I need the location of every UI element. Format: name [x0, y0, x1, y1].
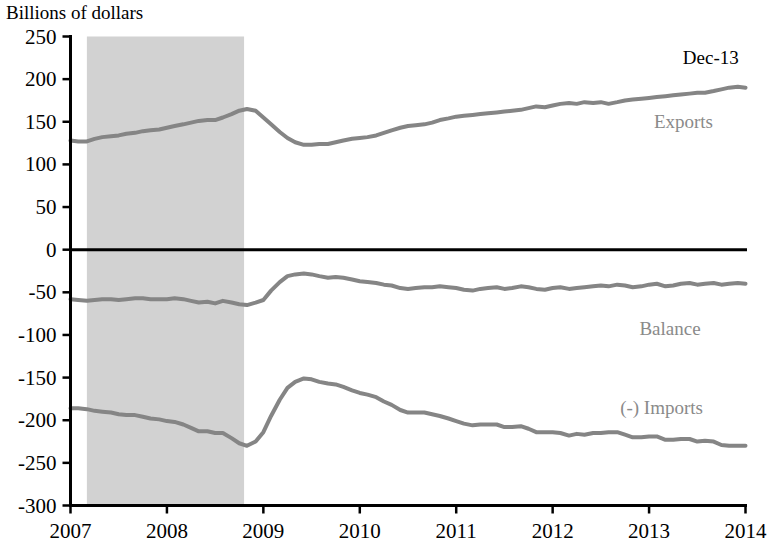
series-label-balance: Balance	[639, 318, 700, 339]
x-tick-label: 2014	[725, 519, 768, 543]
y-tick-label: -250	[18, 451, 57, 475]
y-tick-label: -50	[29, 280, 57, 304]
x-tick-label: 2010	[339, 519, 381, 543]
recession-band	[87, 37, 244, 506]
annotation-latest-period: Dec-13	[683, 47, 739, 68]
y-tick-label: -100	[18, 323, 57, 347]
x-tick-label: 2011	[436, 519, 477, 543]
series-inline-labels: ExportsBalance(-) Imports	[620, 111, 713, 420]
chart-page: Billions of dollars 250200150100500-50-1…	[0, 0, 772, 559]
y-tick-label: 0	[46, 238, 57, 262]
series-label-imports: (-) Imports	[620, 397, 703, 419]
y-tick-label: -150	[18, 366, 57, 390]
y-tick-label: 50	[36, 195, 57, 219]
y-tick-label: 200	[25, 67, 57, 91]
chart-plot-area: 250200150100500-50-100-150-200-250-300 2…	[0, 0, 772, 559]
y-tick-label: 250	[25, 25, 57, 49]
y-tick-label: 150	[25, 110, 57, 134]
x-tick-label: 2012	[532, 519, 574, 543]
y-tick-label: -300	[18, 494, 57, 518]
x-tick-label: 2008	[146, 519, 188, 543]
recession-shaded-regions	[87, 37, 244, 506]
x-tick-label: 2007	[50, 519, 92, 543]
y-tick-label: -200	[18, 408, 57, 432]
series-label-exports: Exports	[654, 111, 713, 132]
y-tick-label: 100	[25, 152, 57, 176]
y-axis-tick-labels: 250200150100500-50-100-150-200-250-300	[18, 25, 57, 518]
x-tick-label: 2013	[628, 519, 670, 543]
chart-annotations: Dec-13	[683, 47, 739, 68]
x-axis-tick-labels: 20072008200920102011201220132014	[50, 519, 768, 543]
x-tick-label: 2009	[242, 519, 284, 543]
